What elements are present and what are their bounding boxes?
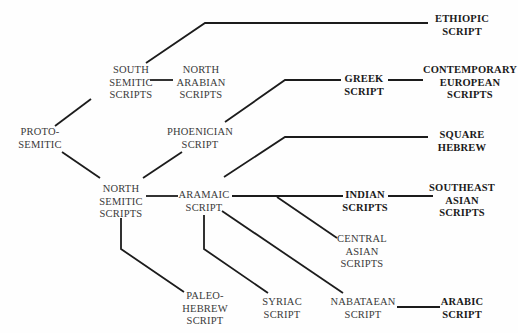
node-label-line: SCRIPT: [330, 309, 395, 322]
node-central-asian: CENTRALASIANSCRIPTS: [337, 233, 387, 271]
node-label-line: SEMITIC: [109, 77, 152, 90]
node-label-line: SCRIPT: [344, 86, 384, 99]
node-phoenician: PHOENICIANSCRIPT: [167, 126, 233, 151]
node-greek: GREEKSCRIPT: [344, 73, 384, 98]
node-north-semitic: NORTHSEMITICSCRIPTS: [99, 183, 142, 221]
node-label-line: SCRIPTS: [109, 89, 152, 102]
node-label-line: SEMITIC: [18, 139, 61, 152]
node-label-line: SCRIPTS: [337, 258, 387, 271]
script-family-tree-diagram: PROTO-SEMITICSOUTHSEMITICSCRIPTSNORTHARA…: [0, 0, 518, 333]
edge-north-semitic-to-phoenician: [143, 152, 182, 178]
node-label-line: HEBREW: [182, 303, 228, 316]
node-label-line: SYRIAC: [262, 296, 302, 309]
node-label-line: ASIAN: [429, 195, 495, 208]
node-label-line: NABATAEAN: [330, 296, 395, 309]
node-arabic: ARABICSCRIPT: [441, 296, 484, 321]
node-label-line: SCRIPT: [179, 202, 230, 215]
edge-aramaic-to-square-hebrew: [224, 137, 428, 177]
edge-phoenician-to-greek: [225, 80, 341, 122]
node-square-hebrew: SQUAREHEBREW: [438, 129, 486, 154]
node-label-line: PROTO-: [18, 126, 61, 139]
node-label-line: NORTH: [99, 183, 142, 196]
node-label-line: SOUTHEAST: [429, 182, 495, 195]
node-label-line: SCRIPT: [167, 139, 233, 152]
node-indian: INDIANSCRIPTS: [342, 189, 388, 214]
node-label-line: HEBREW: [438, 142, 486, 155]
edge-north-semitic-to-paleo-hebrew: [121, 218, 184, 292]
node-label-line: EUROPEAN: [423, 77, 517, 90]
node-ethiopic: ETHIOPICSCRIPT: [435, 13, 489, 38]
node-label-line: ASIAN: [337, 246, 387, 259]
node-paleo-hebrew: PALEO-HEBREWSCRIPT: [182, 290, 228, 328]
node-label-line: SCRIPTS: [429, 207, 495, 220]
node-syriac: SYRIACSCRIPT: [262, 296, 302, 321]
node-north-arabian: NORTHARABIANSCRIPTS: [176, 64, 225, 102]
node-label-line: SCRIPT: [182, 315, 228, 328]
node-contemporary-european: CONTEMPORARYEUROPEANSCRIPTS: [423, 64, 517, 102]
edge-aramaic-to-nabataean: [222, 211, 343, 293]
node-label-line: SCRIPTS: [423, 89, 517, 102]
edge-aramaic-to-syriac: [204, 215, 268, 293]
node-southeast-asian: SOUTHEASTASIANSCRIPTS: [429, 182, 495, 220]
node-label-line: PALEO-: [182, 290, 228, 303]
node-label-line: SCRIPT: [441, 309, 484, 322]
node-label-line: CENTRAL: [337, 233, 387, 246]
node-label-line: SEMITIC: [99, 196, 142, 209]
node-label-line: ARAMAIC: [179, 189, 230, 202]
node-proto-semitic: PROTO-SEMITIC: [18, 126, 61, 151]
node-label-line: NORTH: [176, 64, 225, 77]
edge-aramaic-to-central-asian: [277, 197, 337, 238]
node-label-line: SCRIPTS: [99, 208, 142, 221]
node-label-line: GREEK: [344, 73, 384, 86]
node-nabataean: NABATAEANSCRIPT: [330, 296, 395, 321]
node-label-line: SCRIPTS: [342, 202, 388, 215]
node-label-line: SQUARE: [438, 129, 486, 142]
node-label-line: SCRIPTS: [176, 89, 225, 102]
node-label-line: SCRIPT: [262, 309, 302, 322]
node-label-line: ARABIC: [441, 296, 484, 309]
node-south-semitic: SOUTHSEMITICSCRIPTS: [109, 64, 152, 102]
node-aramaic: ARAMAICSCRIPT: [179, 189, 230, 214]
node-label-line: SCRIPT: [435, 26, 489, 39]
node-label-line: CONTEMPORARY: [423, 64, 517, 77]
node-label-line: ARABIAN: [176, 77, 225, 90]
connector-lines: [0, 0, 518, 333]
edge-proto-semitic-to-south-semitic: [55, 99, 91, 126]
edge-south-semitic-to-ethiopic: [146, 23, 428, 63]
node-label-line: ETHIOPIC: [435, 13, 489, 26]
node-label-line: SOUTH: [109, 64, 152, 77]
edge-proto-semitic-to-north-semitic: [62, 152, 100, 178]
node-label-line: INDIAN: [342, 189, 388, 202]
node-label-line: PHOENICIAN: [167, 126, 233, 139]
